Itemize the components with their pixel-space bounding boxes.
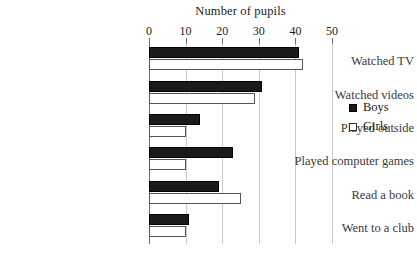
- bar-boys-read-a-book: [149, 181, 219, 192]
- category-label: Went to a club: [271, 221, 417, 236]
- x-tick-label: 50: [326, 24, 338, 39]
- bar-chart-figure: Number of pupils 01020304050 Watched TVW…: [0, 0, 417, 257]
- x-tick-label: 30: [253, 24, 265, 39]
- gridline-20: [222, 44, 223, 244]
- bar-boys-watched-videos: [149, 81, 262, 92]
- bar-boys-played-computer-games: [149, 147, 233, 158]
- bar-girls-watched-videos: [149, 93, 255, 104]
- category-label: Read a book: [271, 188, 417, 203]
- gridline-40: [295, 44, 296, 244]
- gridline-50: [332, 44, 333, 244]
- x-tick-label: 40: [289, 24, 301, 39]
- legend-item-boys: Boys: [349, 98, 415, 117]
- plot-area: [149, 44, 332, 244]
- gridline-30: [259, 44, 260, 244]
- bar-girls-read-a-book: [149, 193, 241, 204]
- legend-label: Boys: [363, 100, 389, 115]
- legend-swatch-filled-square-icon: [349, 104, 357, 112]
- legend-item-girls: Girls: [349, 117, 415, 136]
- bar-girls-played-computer-games: [149, 159, 186, 170]
- chart-legend: BoysGirls: [349, 98, 415, 136]
- legend-label: Girls: [363, 119, 388, 134]
- category-label: Watched TV: [271, 54, 417, 69]
- legend-swatch-outlined-square-icon: [349, 123, 357, 131]
- category-label: Played computer games: [271, 154, 417, 169]
- chart-title: Number of pupils: [149, 4, 332, 19]
- x-tick-label: 0: [146, 24, 152, 39]
- bar-girls-played-outside: [149, 126, 186, 137]
- bar-girls-went-to-a-club: [149, 226, 186, 237]
- x-tick-label: 10: [180, 24, 192, 39]
- bar-boys-played-outside: [149, 114, 200, 125]
- x-tick-label: 20: [216, 24, 228, 39]
- bar-boys-went-to-a-club: [149, 214, 189, 225]
